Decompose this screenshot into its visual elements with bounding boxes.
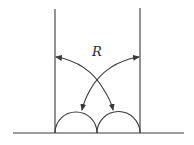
radius-arc-left-arrow [56, 57, 104, 90]
radius-arc-left-tail [104, 90, 113, 110]
right-semicircle [97, 112, 140, 134]
radius-arc-right-arrow [90, 57, 139, 90]
left-semicircle [55, 112, 97, 133]
radius-label: R [91, 44, 102, 59]
radius-diagram: R [0, 0, 194, 145]
radius-arc-right-tail [82, 90, 90, 110]
